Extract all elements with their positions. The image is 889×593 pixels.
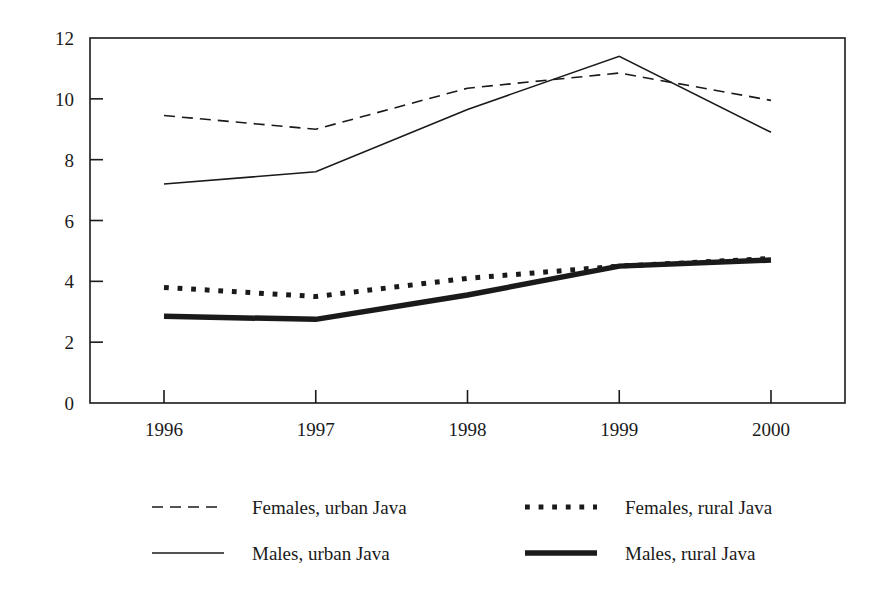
- y-axis-tick-label: 12: [55, 28, 74, 49]
- chart-figure: 024681012 19961997199819992000 Females, …: [0, 0, 889, 593]
- legend-label: Males, urban Java: [252, 543, 390, 564]
- x-axis-tick-label: 2000: [752, 419, 790, 440]
- line-chart: 024681012 19961997199819992000 Females, …: [0, 0, 889, 593]
- y-axis-tick-label: 4: [65, 271, 75, 292]
- x-axis-tick-label: 1998: [449, 419, 487, 440]
- y-axis-tick-label: 6: [65, 211, 75, 232]
- y-axis-tick-label: 0: [65, 393, 75, 414]
- legend-label: Females, urban Java: [252, 497, 407, 518]
- x-axis-tick-label: 1997: [297, 419, 335, 440]
- x-axis-tick-label: 1999: [600, 419, 638, 440]
- x-axis-tick-label: 1996: [145, 419, 183, 440]
- y-axis-tick-label: 8: [65, 150, 75, 171]
- legend-label: Males, rural Java: [625, 543, 756, 564]
- legend-label: Females, rural Java: [625, 497, 773, 518]
- y-axis-tick-label: 2: [65, 332, 75, 353]
- y-axis-tick-label: 10: [55, 89, 74, 110]
